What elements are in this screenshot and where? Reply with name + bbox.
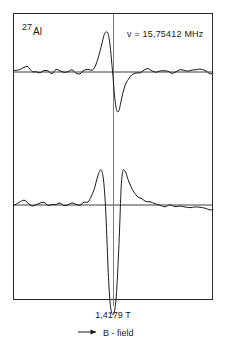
spectrum-canvas: 27 Al ν = 15,75412 MHz 1,4179 T B - fiel… [0,0,226,342]
field-value-label: 1,4179 T [95,310,131,320]
nmr-spectrum-figure: 27 Al ν = 15,75412 MHz 1,4179 T B - fiel… [0,0,226,342]
frequency-label: ν = 15,75412 MHz [127,29,204,39]
x-axis-label: B - field [103,328,134,338]
isotope-mass-number: 27 [22,22,32,32]
isotope-symbol: Al [33,26,42,37]
figure-background [0,0,226,342]
